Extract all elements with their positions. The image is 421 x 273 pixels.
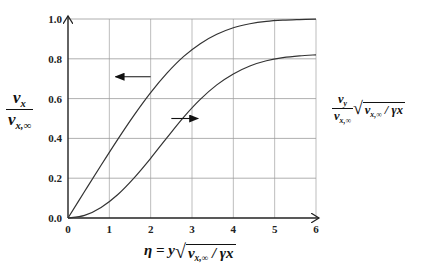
x-tick-label: 2 <box>148 223 154 235</box>
y-tick-label: 0.0 <box>48 212 62 224</box>
x-tick-label: 3 <box>189 223 195 235</box>
y-tick-label: 0.6 <box>48 93 62 105</box>
y-tick-label: 0.2 <box>48 172 62 184</box>
axes <box>68 16 319 218</box>
x-tick-label: 4 <box>231 223 237 235</box>
y-axis-label-left: vx vx,∞ <box>6 88 33 130</box>
x-tick-label: 1 <box>107 223 113 235</box>
y-tick-label: 0.8 <box>48 53 62 65</box>
x-axis-label: η = y√vx,∞ / γx <box>144 240 236 263</box>
y-tick-label: 0.4 <box>48 132 62 144</box>
tick-labels: 01234560.00.20.40.60.81.0 <box>48 13 319 235</box>
x-tick-label: 6 <box>313 223 319 235</box>
chart-canvas: 01234560.00.20.40.60.81.0 <box>0 0 421 273</box>
x-tick-label: 0 <box>65 223 71 235</box>
direction-arrows <box>116 77 199 119</box>
y-tick-label: 1.0 <box>48 13 62 25</box>
y-axis-label-right: vy vx,∞ √vx,∞ / γx <box>332 92 405 124</box>
x-tick-label: 5 <box>272 223 278 235</box>
